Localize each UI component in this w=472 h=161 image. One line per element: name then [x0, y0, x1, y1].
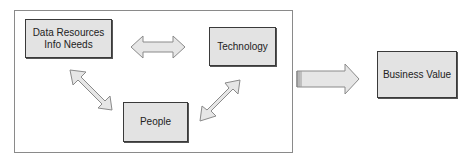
double-arrow-technology-people: [200, 80, 240, 121]
arrow-to-business-value: [297, 64, 359, 94]
double-arrow-data-people: [70, 70, 112, 110]
double-arrow-data-technology: [131, 36, 185, 58]
arrows-layer: [0, 0, 472, 161]
